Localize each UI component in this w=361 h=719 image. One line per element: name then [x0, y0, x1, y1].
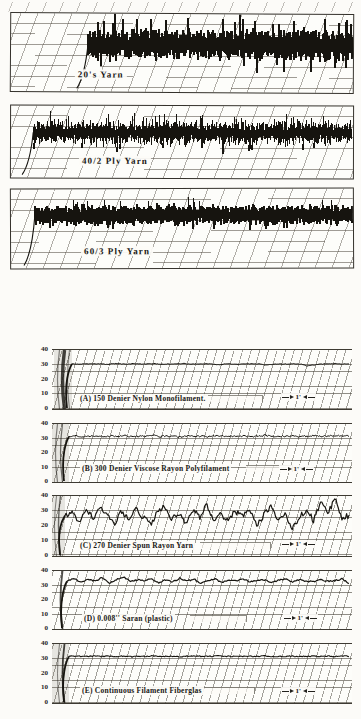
arrow-right-icon [292, 616, 296, 620]
arrow-right-icon [290, 542, 294, 546]
scale-marker-1ft: 1' [283, 614, 318, 622]
strip-label: (B) 300 Denier Viscose Rayon Polyfilamen… [80, 464, 231, 473]
y-tick: 20 [41, 669, 48, 677]
dimension-line [280, 469, 287, 470]
trace [11, 106, 353, 179]
y-tick: 20 [41, 521, 48, 529]
y-tick: 20 [41, 448, 48, 456]
dimension-line [306, 469, 313, 470]
plot-area: (D) 0.008'' Saran (plastic) 1' [52, 570, 352, 630]
plot-area: (C) 270 Denier Spun Rayon Yarn 1' [52, 495, 352, 557]
y-tick: 10 [41, 683, 48, 691]
y-tick: 40 [41, 491, 48, 499]
y-tick: 30 [41, 581, 48, 589]
strip-label: (D) 0.008'' Saran (plastic) [82, 614, 175, 623]
y-tick: 0 [45, 551, 49, 559]
grid-overshoot-ticks [8, 2, 354, 12]
y-axis: 40 30 20 10 0 [28, 643, 48, 702]
y-tick: 20 [41, 375, 48, 383]
strip-chart-40-2-ply-yarn: 40/2 Ply Yarn [10, 105, 354, 180]
y-tick: 10 [41, 536, 48, 544]
strip-label: (E) Continuous Filament Fiberglas [80, 686, 204, 695]
trace [52, 424, 352, 482]
y-tick: 0 [45, 477, 49, 485]
arrow-left-icon [301, 467, 305, 471]
trace [11, 13, 353, 93]
strip-chart-A-nylon-monofilament: 40 30 20 10 0 (A) 150 Denier Nylon Monof… [0, 349, 361, 408]
arrow-left-icon [303, 395, 307, 399]
arrow-right-icon [290, 395, 294, 399]
arrow-left-icon [303, 689, 307, 693]
y-axis: 40 30 20 10 0 [28, 349, 48, 408]
y-tick: 10 [41, 610, 48, 618]
plot-area: (B) 300 Denier Viscose Rayon Polyfilamen… [52, 423, 352, 483]
scale-marker-1ft: 1' [279, 465, 314, 473]
y-tick: 30 [41, 654, 48, 662]
strip-label: (A) 150 Denier Nylon Monofilament. [78, 394, 208, 403]
strip-chart-B-viscose-rayon: 40 30 20 10 0 (B) 300 Denier Viscose Ray… [0, 423, 361, 481]
strip-label: 60/3 Ply Yarn [81, 246, 153, 256]
dimension-line [310, 618, 317, 619]
y-tick: 30 [41, 506, 48, 514]
dimension-line [308, 397, 315, 398]
scale-marker-1ft: 1' [281, 540, 316, 548]
y-axis: 40 30 20 10 0 [28, 570, 48, 628]
plot-area: (E) Continuous Filament Fiberglas 1' [52, 643, 352, 704]
strip-label: (C) 270 Denier Spun Rayon Yarn [78, 541, 195, 550]
arrow-left-icon [303, 542, 307, 546]
y-tick: 0 [45, 698, 49, 706]
scale-marker-1ft: 1' [281, 687, 316, 695]
y-tick: 10 [41, 463, 48, 471]
y-tick: 20 [41, 595, 48, 603]
y-axis: 40 30 20 10 0 [28, 495, 48, 555]
strip-label: 40/2 Ply Yarn [79, 156, 151, 166]
arrow-right-icon [290, 689, 294, 693]
arrow-right-icon [288, 467, 292, 471]
strip-chart-C-spun-rayon: 40 30 20 10 0 (C) 270 Denier Spun Rayon … [0, 495, 361, 555]
strip-chart-D-saran-plastic: 40 30 20 10 0 (D) 0.008'' Saran (plastic… [0, 570, 361, 628]
strip-chart-20s-yarn: 20's Yarn [10, 12, 354, 94]
strip-label: 20's Yarn [75, 69, 127, 79]
y-tick: 0 [45, 624, 49, 632]
arrow-left-icon [305, 616, 309, 620]
dimension-line [282, 544, 289, 545]
y-tick: 40 [41, 345, 48, 353]
dimension-line [308, 544, 315, 545]
strip-chart-60-3-ply-yarn: 60/3 Ply Yarn [10, 187, 354, 269]
y-tick: 40 [41, 639, 48, 647]
dimension-line [284, 618, 291, 619]
y-tick: 10 [41, 389, 48, 397]
scanned-strip-chart-figure: 20's Yarn 40/2 Ply Yarn 60/3 Ply Yarn 40… [0, 0, 361, 719]
y-tick: 30 [41, 360, 48, 368]
y-tick: 40 [41, 566, 48, 574]
scale-marker-1ft: 1' [281, 393, 316, 401]
y-tick: 40 [41, 419, 48, 427]
dimension-line [308, 691, 315, 692]
trace [11, 188, 353, 268]
strip-chart-E-fiberglas: 40 30 20 10 0 (E) Continuous Filament Fi… [0, 643, 361, 702]
dimension-line [282, 397, 289, 398]
plot-area: (A) 150 Denier Nylon Monofilament. 1' [52, 349, 352, 410]
y-tick: 30 [41, 434, 48, 442]
y-axis: 40 30 20 10 0 [28, 423, 48, 481]
dimension-line [282, 691, 289, 692]
y-tick: 0 [45, 404, 49, 412]
